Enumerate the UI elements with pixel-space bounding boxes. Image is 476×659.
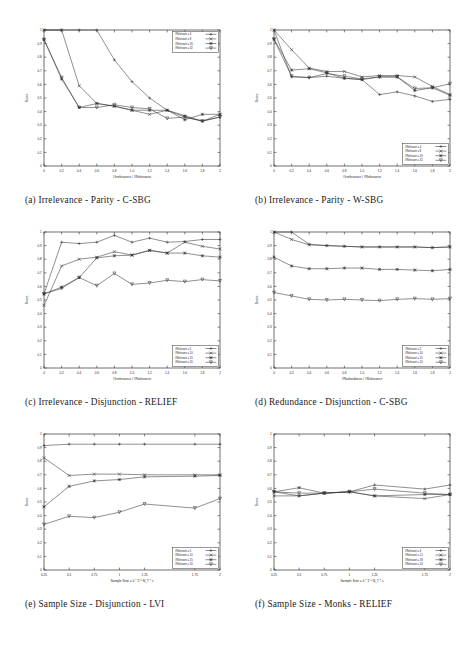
panel-e-plot: 0.250.50.7511.251.75200.10.20.30.40.50.6… xyxy=(14,422,232,594)
x-tick-label: 1.6 xyxy=(183,371,188,375)
x-axis-label: #Irrelevance / #Relevance xyxy=(113,175,151,179)
panel-f: 0.250.50.7511.251.75200.10.20.30.40.50.6… xyxy=(244,422,462,610)
y-tick-label: 0 xyxy=(40,164,42,168)
y-tick-label: 0.5 xyxy=(267,500,272,504)
y-tick-label: 0 xyxy=(270,568,272,572)
x-tick-label: 1.0 xyxy=(360,169,365,173)
y-tick-label: 0.4 xyxy=(267,312,272,316)
data-point-marker xyxy=(343,267,346,270)
data-point-marker xyxy=(439,356,442,359)
panel-f-plot: 0.250.50.7511.251.75200.10.20.30.40.50.6… xyxy=(244,422,462,594)
legend-label: #Relevant = 4 xyxy=(175,32,192,36)
x-tick-label: 1.2 xyxy=(377,169,382,173)
x-tick-label: 0.4 xyxy=(307,371,312,375)
x-tick-label: 1.8 xyxy=(430,371,435,375)
x-axis-label: #Redundance / #Relevance xyxy=(342,377,383,381)
y-tick-label: 0.8 xyxy=(37,55,42,59)
y-tick-label: 0.1 xyxy=(267,353,272,357)
y-tick-label: 0.1 xyxy=(37,353,42,357)
data-point-marker xyxy=(193,475,196,478)
legend-label: #Relevant = 18 xyxy=(405,558,424,562)
y-tick-label: 1 xyxy=(40,432,42,436)
x-tick-label: 1.6 xyxy=(183,169,188,173)
x-tick-label: 1.4 xyxy=(165,169,170,173)
x-tick-label: 2 xyxy=(219,573,221,577)
y-tick-label: 0.2 xyxy=(267,541,272,545)
legend-label: #Relevant = 5 xyxy=(175,347,192,351)
chart-b: 00.20.40.60.81.01.21.41.61.8200.10.20.30… xyxy=(244,18,462,190)
x-tick-label: 1.8 xyxy=(430,169,435,173)
y-tick-label: 0 xyxy=(40,366,42,370)
panel-b-plot: 00.20.40.60.81.01.21.41.61.8200.10.20.30… xyxy=(244,18,462,190)
data-point-marker xyxy=(413,269,416,272)
x-tick-label: 1.0 xyxy=(130,169,135,173)
y-axis-label: Score xyxy=(25,296,29,305)
x-axis-label: #Irrelevance / #Relevance xyxy=(113,377,151,381)
legend-label: #Relevant = 12 xyxy=(405,553,424,557)
x-tick-label: 0.2 xyxy=(59,169,64,173)
data-point-marker xyxy=(431,269,434,272)
legend-label: #Relevant = 32 xyxy=(175,46,194,50)
y-tick-label: 0.5 xyxy=(37,298,42,302)
panel-c-caption: (c) Irrelevance - Disjunction - RELIEF xyxy=(25,396,221,408)
data-point-marker xyxy=(201,254,204,257)
y-tick-label: 0.8 xyxy=(267,257,272,261)
x-tick-label: 0.2 xyxy=(59,371,64,375)
x-tick-label: 1 xyxy=(119,573,121,577)
legend-label: #Relevant = 15 xyxy=(175,558,194,562)
legend-label: #Relevant = 8 xyxy=(405,149,422,153)
x-tick-label: 0.4 xyxy=(77,169,82,173)
data-point-marker xyxy=(378,268,381,271)
y-tick-label: 0 xyxy=(270,366,272,370)
x-tick-label: 2 xyxy=(449,169,451,173)
x-tick-label: 0.5 xyxy=(297,573,302,577)
y-tick-label: 0.9 xyxy=(37,446,42,450)
x-tick-label: 0.4 xyxy=(77,371,82,375)
panel-f-caption: (f) Sample Size - Monks - RELIEF xyxy=(255,598,451,610)
legend-label: #Relevant = 10 xyxy=(405,351,424,355)
y-tick-label: 0.6 xyxy=(37,285,42,289)
x-tick-label: 0.2 xyxy=(289,169,294,173)
data-point-marker xyxy=(93,479,96,482)
panel-d-plot: 00.20.40.60.81.01.21.41.61.8200.10.20.30… xyxy=(244,220,462,392)
y-tick-label: 0.6 xyxy=(267,285,272,289)
data-point-marker xyxy=(209,42,212,45)
chart-a: 00.20.40.60.81.01.21.41.61.8200.10.20.30… xyxy=(14,18,232,190)
y-tick-label: 1 xyxy=(40,28,42,32)
row-spacer-2 xyxy=(0,408,476,422)
legend-label: #Relevant = 20 xyxy=(405,360,424,364)
y-tick-label: 0.3 xyxy=(267,527,272,531)
data-point-marker xyxy=(373,494,376,497)
y-tick-label: 0.3 xyxy=(37,123,42,127)
legend-label: #Relevant = 10 xyxy=(175,553,194,557)
y-tick-label: 0.6 xyxy=(267,487,272,491)
x-tick-label: 1.6 xyxy=(413,371,418,375)
y-tick-label: 0.3 xyxy=(37,527,42,531)
panel-b: 00.20.40.60.81.01.21.41.61.8200.10.20.30… xyxy=(244,18,462,206)
data-point-marker xyxy=(449,94,452,97)
data-point-marker xyxy=(118,478,121,481)
data-point-marker xyxy=(113,254,116,257)
x-tick-label: 1.8 xyxy=(200,169,205,173)
y-tick-label: 0.5 xyxy=(37,500,42,504)
x-tick-label: 1.0 xyxy=(130,371,135,375)
legend-label: #Relevant = 10 xyxy=(175,351,194,355)
y-tick-label: 0.8 xyxy=(37,459,42,463)
x-tick-label: 1.4 xyxy=(395,169,400,173)
x-tick-label: 2 xyxy=(449,371,451,375)
legend: #Relevant = 5#Relevant = 10#Relevant = 1… xyxy=(173,346,219,367)
y-tick-label: 0.4 xyxy=(37,110,42,114)
y-tick-label: 0.9 xyxy=(37,244,42,248)
legend: #Relevant = 6#Relevant = 12#Relevant = 1… xyxy=(403,548,449,569)
legend: #Relevant = 5#Relevant = 10#Relevant = 1… xyxy=(403,346,449,367)
x-tick-label: 0.75 xyxy=(91,573,97,577)
chart-e: 0.250.50.7511.251.75200.10.20.30.40.50.6… xyxy=(14,422,232,594)
data-point-marker xyxy=(166,252,169,255)
data-point-marker xyxy=(143,475,146,478)
data-point-marker xyxy=(396,268,399,271)
y-tick-label: 0.4 xyxy=(37,514,42,518)
x-tick-label: 1.25 xyxy=(372,573,378,577)
panel-e: 0.250.50.7511.251.75200.10.20.30.40.50.6… xyxy=(14,422,232,610)
y-tick-label: 0.6 xyxy=(37,487,42,491)
y-tick-label: 1 xyxy=(270,28,272,32)
